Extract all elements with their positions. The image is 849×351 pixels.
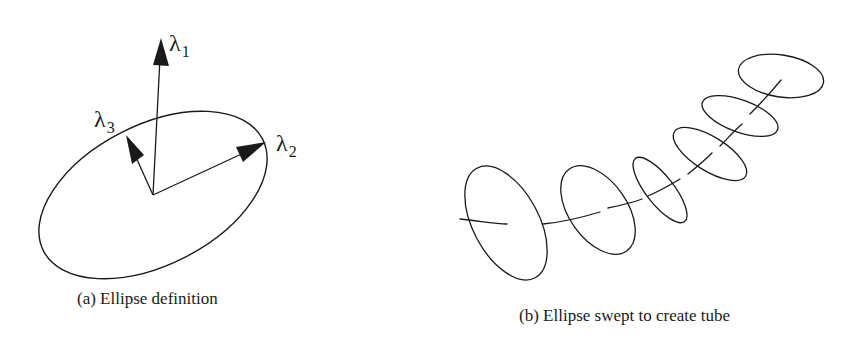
lambda-3-subscript: 3 (107, 119, 115, 136)
lambda-2-label: λ2 (276, 131, 297, 160)
caption-b: (b) Ellipse swept to create tube (519, 306, 730, 326)
sweep-path-curve (460, 80, 781, 224)
lambda-1-label: λ1 (169, 31, 190, 60)
lambda-2-vector (153, 142, 266, 195)
lambda-3-vector (126, 135, 153, 195)
tube-cross-section-2 (546, 152, 651, 267)
lambda-2-subscript: 2 (289, 143, 297, 160)
lambda-2-arrowhead-icon (236, 142, 266, 162)
tube-cross-section-6 (735, 49, 827, 104)
caption-a: (a) Ellipse definition (77, 289, 218, 309)
panel-a-ellipse-definition (12, 38, 295, 313)
lambda-3-label: λ3 (94, 107, 115, 136)
lambda-3-arrowhead-icon (126, 135, 144, 164)
lambda-1-subscript: 1 (182, 43, 190, 60)
lambda-1-arrowhead-icon (153, 38, 169, 66)
lambda-1-symbol: λ (169, 30, 181, 56)
tube-cross-section-5 (697, 87, 783, 144)
lambda-3-symbol: λ (94, 106, 106, 132)
panel-b-swept-tube (448, 49, 827, 294)
lambda-2-symbol: λ (276, 130, 288, 156)
